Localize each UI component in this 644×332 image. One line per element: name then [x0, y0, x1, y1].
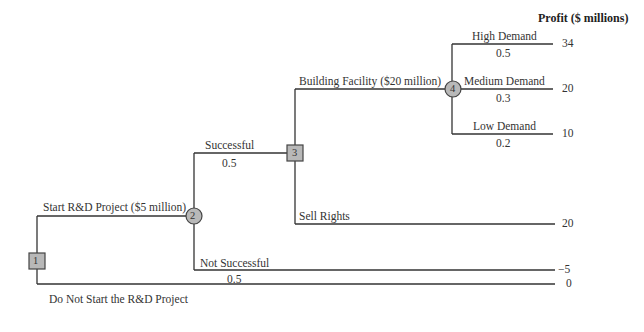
- node-3-label: 3: [292, 148, 297, 159]
- payoff-not-successful: −5: [558, 264, 570, 276]
- payoff-medium: 20: [562, 83, 574, 95]
- branch-low-demand: Low Demand: [473, 121, 536, 133]
- branch-medium-demand: Medium Demand: [464, 76, 545, 88]
- payoff-sell-rights: 20: [562, 218, 574, 230]
- payoff-low: 10: [562, 128, 574, 140]
- payoff-do-not-start: 0: [566, 278, 572, 290]
- prob-low-demand: 0.2: [496, 138, 510, 150]
- payoff-high: 34: [562, 38, 574, 50]
- node-1-label: 1: [33, 256, 38, 267]
- prob-medium-demand: 0.3: [496, 93, 510, 105]
- prob-successful: 0.5: [222, 158, 236, 170]
- branch-successful: Successful: [205, 140, 254, 152]
- branch-start-rd: Start R&D Project ($5 million): [43, 202, 186, 214]
- prob-not-successful: 0.5: [227, 274, 241, 286]
- branch-high-demand: High Demand: [472, 31, 537, 43]
- prob-high-demand: 0.5: [496, 48, 510, 60]
- node-2-label: 2: [190, 211, 195, 222]
- branch-building-facility: Building Facility ($20 million): [299, 76, 441, 88]
- branch-do-not-start: Do Not Start the R&D Project: [49, 294, 188, 306]
- branch-not-successful: Not Successful: [200, 258, 269, 270]
- node-4-label: 4: [450, 84, 455, 95]
- decision-tree-lines: [0, 0, 644, 332]
- branch-sell-rights: Sell Rights: [299, 211, 350, 223]
- profit-header: Profit ($ millions): [538, 12, 628, 24]
